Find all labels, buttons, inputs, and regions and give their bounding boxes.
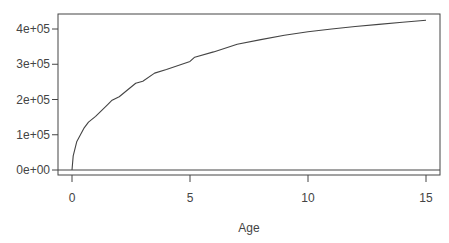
x-axis: 051015 (69, 175, 433, 205)
y-tick-label: 4e+05 (16, 22, 50, 36)
plot-frame (58, 14, 440, 175)
series-layer (72, 20, 426, 170)
data-line (72, 20, 426, 170)
y-tick-label: 1e+05 (16, 128, 50, 142)
plot-box (58, 14, 440, 175)
y-tick-label: 3e+05 (16, 57, 50, 71)
x-tick-label: 5 (187, 191, 194, 205)
x-axis-title: Age (238, 221, 260, 235)
y-tick-label: 2e+05 (16, 93, 50, 107)
x-tick-label: 10 (301, 191, 315, 205)
x-tick-label: 15 (419, 191, 433, 205)
x-tick-label: 0 (69, 191, 76, 205)
y-tick-label: 0e+00 (16, 163, 50, 177)
line-chart: 0e+001e+052e+053e+054e+05 051015 Age (0, 0, 449, 243)
y-axis: 0e+001e+052e+053e+054e+05 (16, 22, 58, 177)
